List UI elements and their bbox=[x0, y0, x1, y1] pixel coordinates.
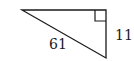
hypotenuse-label: 61 bbox=[49, 36, 67, 52]
right-angle-marker bbox=[95, 10, 106, 21]
vertical-leg-label: 11 bbox=[115, 27, 133, 43]
right-triangle-diagram: 61 11 bbox=[0, 0, 134, 61]
